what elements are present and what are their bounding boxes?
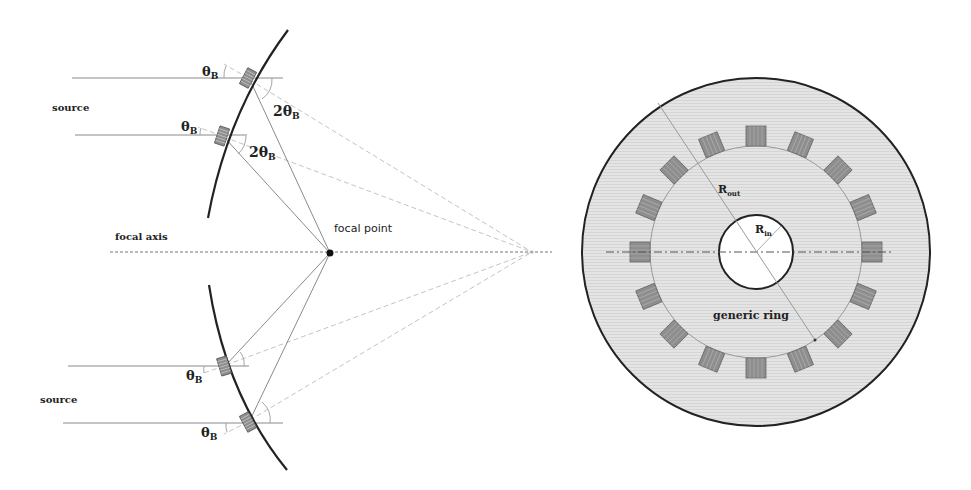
theta-b-label-3: θB — [186, 368, 203, 385]
crystal-lower-2 — [239, 412, 256, 433]
focal-axis-label: focal axis — [115, 231, 168, 242]
theta-b-label-4: θB — [201, 425, 218, 442]
normal-lines — [198, 64, 248, 434]
faint-rays — [224, 80, 532, 420]
two-theta-b-label-1: 2θB — [273, 103, 300, 121]
source-label-top: source — [52, 102, 89, 113]
crystal-lower-1 — [217, 356, 232, 376]
r-out-end-marker — [814, 339, 817, 342]
source-label-bottom: source — [40, 394, 77, 405]
theta-b-label-2: θB — [181, 119, 198, 136]
focal-point-marker — [327, 250, 334, 257]
theta-b-label-1: θB — [202, 64, 219, 81]
rowland-circle-diagram: source source focal axis focal point θB … — [0, 0, 971, 490]
lower-crystal-arc — [209, 285, 287, 470]
focused-rays — [224, 80, 330, 420]
right-figure: Rout Rin generic ring — [582, 78, 930, 426]
left-figure: source source focal axis focal point θB … — [40, 30, 552, 470]
source-rays — [63, 78, 283, 423]
generic-ring-label: generic ring — [713, 309, 789, 322]
upper-crystal-arc — [208, 30, 288, 218]
two-theta-b-label-2: 2θB — [249, 144, 276, 162]
focal-point-label: focal point — [334, 222, 393, 235]
far-point-marker — [531, 251, 534, 254]
